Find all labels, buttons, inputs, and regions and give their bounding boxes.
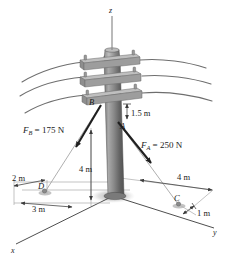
point-label-d: D: [37, 181, 45, 191]
pole-diagram-svg: z x y B A D C FB = 175 N FA = 250 N 1.5 …: [0, 0, 230, 263]
dim-label-1m: 1 m: [197, 208, 210, 218]
fa-magnitude: 250: [160, 140, 174, 150]
force-label-fb: FB = 175 N: [22, 125, 65, 136]
dim-arrow-4m-y: [140, 180, 212, 190]
force-label-fa: FA = 250 N: [140, 140, 183, 151]
pole-base-plate: [104, 192, 126, 199]
point-label-b: B: [89, 97, 94, 107]
dim-tick-1m: [192, 203, 196, 209]
wire-left-1: [22, 62, 84, 82]
insulator-3: [84, 72, 87, 77]
insulator-4: [133, 67, 136, 72]
x-axis-label: x: [10, 246, 15, 255]
wire-left-3: [25, 95, 86, 113]
insulator-5: [86, 90, 89, 95]
point-label-c: C: [174, 193, 180, 203]
insulator-6: [134, 84, 137, 89]
fb-magnitude: 175: [42, 125, 56, 135]
insulator-1: [84, 55, 87, 60]
dim-label-3m: 3 m: [32, 204, 45, 214]
wire-right-3: [142, 92, 212, 101]
y-axis-label: y: [212, 228, 217, 237]
insulator-2: [132, 50, 135, 55]
dim-arrow-3m: [21, 203, 72, 207]
svg-text:FA = 250 N: FA = 250 N: [140, 140, 183, 151]
point-label-a: A: [119, 121, 126, 131]
svg-text:FB = 175 N: FB = 175 N: [22, 125, 65, 136]
dim-label-4m-y: 4 m: [177, 172, 190, 182]
fa-unit: N: [176, 140, 183, 150]
wire-right-2: [142, 75, 211, 84]
fb-unit: N: [58, 125, 65, 135]
figure-container: z x y B A D C FB = 175 N FA = 250 N 1.5 …: [0, 0, 230, 263]
wire-left-2: [20, 77, 84, 96]
force-arrow-fb[interactable]: [76, 105, 101, 147]
dim-label-1-5m: 1.5 m: [131, 108, 151, 118]
dim-label-4m-height: 4 m: [79, 164, 92, 174]
wire-right-1: [140, 59, 206, 68]
z-axis-label: z: [108, 6, 113, 15]
dim-label-2m: 2 m: [12, 173, 25, 183]
